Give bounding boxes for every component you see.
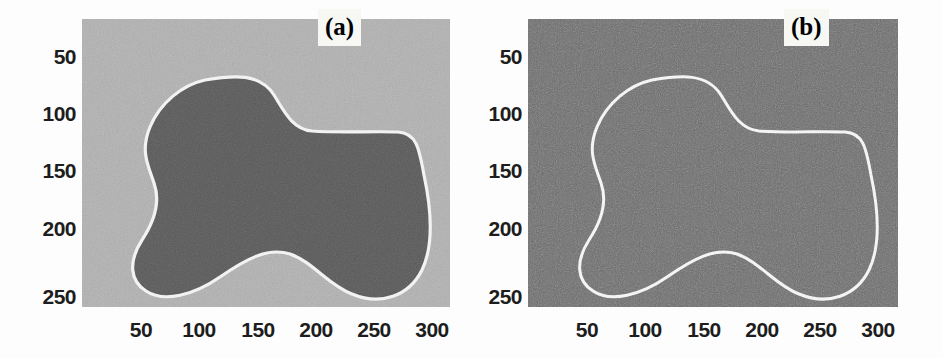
panel-label-b: (b) — [784, 9, 829, 46]
plot-area-b — [528, 19, 898, 307]
plot-area-a — [82, 19, 450, 307]
figure-container: (a) 50 100 150 200 250 50 100 150 200 25… — [0, 0, 943, 358]
y-tick-b-200: 200 — [462, 217, 522, 241]
y-tick-b-50: 50 — [462, 45, 522, 69]
y-tick-b-150: 150 — [462, 159, 522, 183]
y-tick-b-250: 250 — [462, 285, 522, 309]
y-tick-a-150: 150 — [16, 159, 76, 183]
x-tick-a-250: 250 — [346, 318, 402, 342]
image-a — [82, 19, 450, 307]
image-b — [528, 19, 898, 307]
y-tick-b-100: 100 — [462, 102, 522, 126]
x-tick-a-150: 150 — [230, 318, 286, 342]
background-noise-b — [528, 19, 898, 307]
x-tick-a-50: 50 — [113, 318, 169, 342]
x-tick-b-50: 50 — [559, 318, 615, 342]
y-tick-a-100: 100 — [16, 102, 76, 126]
x-tick-a-300: 300 — [404, 318, 460, 342]
panel-label-a: (a) — [318, 9, 361, 46]
x-tick-b-200: 200 — [734, 318, 790, 342]
x-tick-b-100: 100 — [617, 318, 673, 342]
y-tick-a-50: 50 — [16, 45, 76, 69]
panel-a: (a) 50 100 150 200 250 50 100 150 200 25… — [0, 0, 471, 358]
x-tick-a-100: 100 — [171, 318, 227, 342]
y-tick-a-250: 250 — [16, 285, 76, 309]
panel-b: (b) 50 100 150 200 250 50 100 150 200 25… — [471, 0, 943, 358]
x-tick-b-250: 250 — [792, 318, 848, 342]
y-tick-a-200: 200 — [16, 217, 76, 241]
x-tick-a-200: 200 — [288, 318, 344, 342]
x-tick-b-300: 300 — [850, 318, 906, 342]
x-tick-b-150: 150 — [676, 318, 732, 342]
